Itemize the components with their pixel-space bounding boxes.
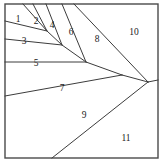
dissection-svg: 1243681057911: [0, 0, 165, 164]
dissection-figure: 1243681057911: [0, 0, 165, 164]
region-label-6: 6: [69, 27, 74, 37]
region-label-5: 5: [34, 58, 39, 68]
region-label-7: 7: [60, 83, 65, 93]
region-label-11: 11: [121, 133, 130, 143]
region-label-3: 3: [22, 36, 27, 46]
region-label-8: 8: [95, 34, 100, 44]
region-label-9: 9: [82, 110, 87, 120]
region-label-10: 10: [129, 27, 139, 37]
region-label-1: 1: [16, 14, 21, 24]
region-label-2: 2: [34, 16, 39, 26]
region-label-4: 4: [50, 20, 55, 30]
